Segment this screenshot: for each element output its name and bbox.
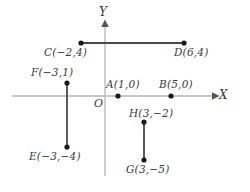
point-h (141, 119, 146, 124)
point-e (64, 144, 69, 149)
point-d (181, 40, 186, 45)
point-b (168, 93, 173, 98)
point-label-c: C(−2,4) (44, 46, 87, 58)
origin-label: O (94, 97, 103, 110)
coordinate-plane-figure: X Y O C(−2,4) D(6,4) F(−3,1) A(1,0) B(5,… (0, 0, 250, 192)
point-label-f: F(−3,1) (31, 66, 73, 78)
point-label-a: A(1,0) (106, 78, 140, 90)
point-label-d: D(6,4) (174, 46, 209, 58)
point-c (78, 40, 83, 45)
point-g (141, 157, 146, 162)
point-a (115, 93, 120, 98)
point-label-g: G(3,−5) (126, 163, 169, 175)
point-f (64, 80, 69, 85)
y-axis-label-x: X (219, 88, 228, 102)
point-label-h: H(3,−2) (129, 107, 173, 119)
point-label-e: E(−3,−4) (29, 150, 81, 162)
x-axis-label-y: Y (99, 5, 107, 19)
point-label-b: B(5,0) (159, 78, 193, 90)
coordinate-plane-svg (0, 0, 250, 192)
